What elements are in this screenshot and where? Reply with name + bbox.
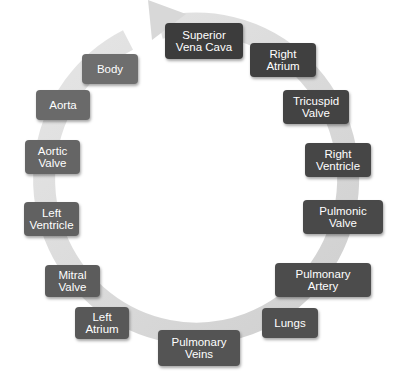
node-mitral-valve: Mitral Valve <box>45 265 100 297</box>
node-right-ventricle: Right Ventricle <box>305 143 371 177</box>
node-pulmonic-valve: Pulmonic Valve <box>303 200 383 234</box>
node-aortic-valve: Aortic Valve <box>25 140 80 174</box>
node-body: Body <box>82 54 138 84</box>
node-aorta: Aorta <box>36 90 90 120</box>
node-right-atrium: Right Atrium <box>250 43 316 77</box>
node-left-atrium: Left Atrium <box>75 307 129 339</box>
node-pulmonary-artery: Pulmonary Artery <box>275 263 371 297</box>
node-tricuspid-valve: Tricuspid Valve <box>283 90 349 124</box>
node-lungs: Lungs <box>262 308 318 338</box>
node-superior-vena-cava: Superior Vena Cava <box>165 23 243 59</box>
node-pulmonary-veins: Pulmonary Veins <box>158 330 240 366</box>
node-left-ventricle: Left Ventricle <box>24 202 79 236</box>
